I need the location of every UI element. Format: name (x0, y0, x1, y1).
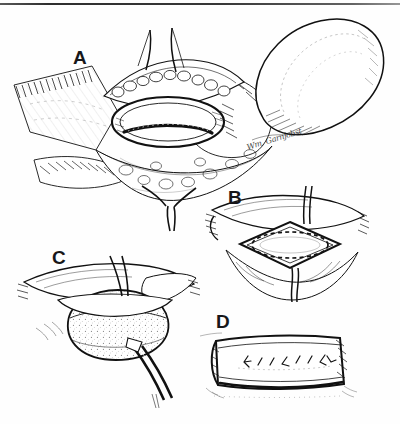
figure-root: A B C D Wm. Garnjobst (0, 0, 400, 424)
panel-label-d: D (216, 312, 230, 331)
surgical-illustration-artwork (0, 0, 400, 424)
elliptical-opening (112, 97, 224, 147)
panel-label-b: B (228, 188, 242, 207)
closed-cylinder (211, 336, 347, 389)
scan-artifacts (152, 394, 340, 408)
panel-label-c: C (52, 248, 66, 267)
retracted-flap-left (14, 66, 118, 150)
panel-a-artwork (14, 19, 384, 231)
diamond-defect (240, 222, 340, 268)
glans (256, 19, 384, 135)
panel-label-a: A (73, 48, 87, 67)
panel-d-artwork (200, 333, 357, 398)
panel-c-artwork (17, 256, 200, 400)
